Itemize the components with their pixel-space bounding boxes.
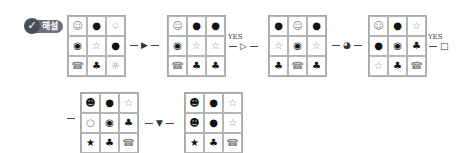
- cell: ◉: [288, 36, 307, 56]
- arrow-2: ▷: [228, 41, 259, 51]
- cell: ●: [204, 113, 223, 133]
- cell: ☺: [288, 16, 307, 36]
- grid-step-2: ☺ ● ● ◉ ☆ ☆ ☎ ♣ ♣: [167, 15, 226, 77]
- cell: ☆: [223, 113, 242, 133]
- yes-label: YES: [428, 33, 443, 41]
- cell: ◉: [100, 113, 119, 133]
- cell: ●: [269, 16, 288, 36]
- cell: ♣: [206, 56, 225, 76]
- cell: ◉: [68, 36, 87, 56]
- cell: ★: [81, 133, 100, 153]
- cell: ☻: [185, 93, 204, 113]
- grid-step-1: ☺ ● ♤ ◉ ☆ ● ☎ ♣ ☼: [67, 15, 126, 77]
- cell: ♣: [407, 36, 426, 56]
- cell: ☎: [223, 133, 242, 153]
- cell: ♣: [269, 56, 288, 76]
- cell: ★: [185, 133, 204, 153]
- grid-step-5: ☻ ● ☆ ○ ◉ ♣ ★ ♣ ☎: [80, 92, 139, 153]
- cell: ☆: [269, 36, 288, 56]
- grid-step-4: ☺ ● ☆ ● ◉ ♣ ☆ ♣ ☎: [368, 15, 427, 77]
- cell: ☆: [307, 36, 326, 56]
- down-triangle-icon: ▼: [156, 118, 163, 128]
- cell: ☻: [185, 113, 204, 133]
- cell: ●: [100, 93, 119, 113]
- grid-step-6: ☻ ● ☆ ☻ ● ☆ ★ ♣ ☎: [184, 92, 243, 153]
- cell: ●: [206, 16, 225, 36]
- cell: ☆: [119, 93, 138, 113]
- cell: ◉: [168, 36, 187, 56]
- cell: ●: [106, 36, 125, 56]
- cell: ☆: [87, 36, 106, 56]
- cell: ●: [204, 93, 223, 113]
- cell: ☆: [223, 93, 242, 113]
- cell: ◉: [388, 36, 407, 56]
- cell: ♣: [187, 56, 206, 76]
- cell: ☻: [81, 93, 100, 113]
- yes-label: YES: [228, 33, 243, 41]
- arrow-1: ▶: [129, 40, 160, 50]
- cell: ●: [388, 16, 407, 36]
- cell: ●: [187, 16, 206, 36]
- cell: ☆: [407, 16, 426, 36]
- arrow-6: ▼: [144, 118, 175, 128]
- grid-step-3: ● ☺ ● ☆ ◉ ☆ ♣ ☎ ♣: [268, 15, 327, 77]
- cell: ♣: [307, 56, 326, 76]
- cell: ☺: [68, 16, 87, 36]
- cell: ☎: [288, 56, 307, 76]
- cell: ☺: [369, 16, 388, 36]
- cell: ☆: [206, 36, 225, 56]
- arrow-5: [66, 118, 76, 119]
- cell: ♣: [388, 56, 407, 76]
- cell: ○: [81, 113, 100, 133]
- arrow-4: □: [428, 41, 451, 51]
- square-icon: □: [440, 41, 449, 51]
- cell: ♣: [119, 113, 138, 133]
- outline-triangle-icon: ▷: [240, 41, 247, 51]
- cell: ☎: [119, 133, 138, 153]
- cell: ●: [369, 36, 388, 56]
- cell: ●: [87, 16, 106, 36]
- cell: ●: [307, 16, 326, 36]
- cell: ☎: [68, 56, 87, 76]
- cell: ♤: [106, 16, 125, 36]
- cell: ☎: [407, 56, 426, 76]
- explanation-badge: ✓ 해설: [24, 18, 63, 34]
- cell: ☺: [168, 16, 187, 36]
- cell: ♣: [204, 133, 223, 153]
- cell: ♣: [87, 56, 106, 76]
- arrow-3: ◕: [331, 40, 363, 50]
- cell: ♣: [100, 133, 119, 153]
- cell: ☼: [106, 56, 125, 76]
- cell: ☎: [168, 56, 187, 76]
- half-circle-icon: ◕: [343, 40, 351, 50]
- play-icon: ▶: [141, 40, 148, 50]
- cell: ☆: [369, 56, 388, 76]
- cell: ☆: [187, 36, 206, 56]
- check-icon: ✓: [24, 18, 40, 34]
